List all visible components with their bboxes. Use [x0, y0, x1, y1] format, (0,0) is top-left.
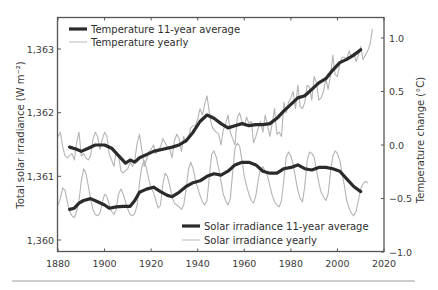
x-tick-label: 1900: [92, 258, 116, 269]
right-tick-label: 0.0: [389, 140, 404, 151]
right-axis-title: Temperature change (°C): [415, 77, 426, 204]
left-axis-title: Total solar irradiance (W m⁻²): [15, 61, 26, 209]
chart-canvas: 18801900192019401960198020002020 1,3601,…: [0, 0, 438, 290]
right-tick-label: −0.5: [389, 193, 412, 204]
left-tick-label: 1,363: [27, 44, 54, 55]
x-tick-label: 1960: [232, 258, 256, 269]
left-tick-label: 1,360: [27, 235, 54, 246]
right-y-axis: −1.0−0.50.00.51.0: [381, 33, 412, 258]
left-tick-label: 1,361: [27, 171, 54, 182]
x-tick-label: 1880: [46, 258, 70, 269]
x-tick-label: 2000: [325, 258, 349, 269]
legend-label-temperature-yearly: Temperature yearly: [90, 37, 189, 48]
x-tick-label: 1940: [186, 258, 210, 269]
x-tick-label: 1920: [139, 258, 163, 269]
x-tick-label: 2020: [372, 258, 396, 269]
right-tick-label: 0.5: [389, 86, 404, 97]
series-layer: [58, 29, 372, 217]
legend-label-solar-yearly: Solar irradiance yearly: [204, 235, 317, 246]
solar-irradiance-11-year-average-line: [70, 162, 361, 209]
legend-temperature: Temperature 11-year average Temperature …: [69, 24, 240, 48]
legend-label-temperature-average: Temperature 11-year average: [90, 24, 240, 35]
left-tick-label: 1,362: [27, 107, 54, 118]
left-y-axis: 1,3601,3611,3621,363: [27, 44, 61, 246]
x-tick-label: 1980: [279, 258, 303, 269]
legend-label-solar-average: Solar irradiance 11-year average: [204, 221, 369, 232]
temperature-yearly-line: [58, 29, 372, 172]
legend-solar: Solar irradiance 11-year average Solar i…: [182, 221, 369, 246]
right-tick-label: −1.0: [389, 247, 412, 258]
right-tick-label: 1.0: [389, 33, 404, 44]
temperature-11-year-average-line: [70, 50, 361, 163]
